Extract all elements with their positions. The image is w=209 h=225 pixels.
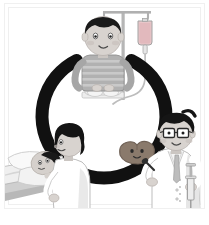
artwork-container xyxy=(0,0,209,225)
doctor-coat-button-1 xyxy=(176,189,179,192)
syringe-plunger-top xyxy=(186,164,196,167)
nurse-cheek xyxy=(54,145,60,149)
patient-pupil-left xyxy=(94,35,97,38)
syringe-barrel xyxy=(188,178,195,200)
doctor-pupil-left xyxy=(168,132,171,135)
nurse-pupil xyxy=(60,141,62,143)
doctor-cheek-right xyxy=(186,139,193,143)
syringe-plunger-rod xyxy=(190,166,193,177)
patient-ear-left xyxy=(82,33,88,41)
patient-pupil-right xyxy=(109,35,112,38)
doctor-hand-left xyxy=(147,178,158,186)
iv-bag-hanger xyxy=(143,19,148,22)
patient-hand-right xyxy=(104,85,114,92)
doctor-coat-button-2 xyxy=(176,198,179,201)
iv-bag-fluid xyxy=(140,23,151,43)
medical-care-cycle-illustration xyxy=(0,0,209,225)
patient-hand-left xyxy=(92,85,102,92)
bottom-band xyxy=(0,208,209,225)
iv-drip-chamber xyxy=(143,45,147,54)
doctor-tie xyxy=(174,155,181,183)
liver-mascot-eye-right xyxy=(140,149,143,153)
nurse-hand xyxy=(49,194,59,202)
patient-cheek-left xyxy=(87,41,94,45)
bedridden-patient-pupil-left xyxy=(39,162,41,164)
patient-ear-right xyxy=(118,33,124,41)
doctor-cheek-left xyxy=(160,139,167,143)
doctor-pupil-right xyxy=(182,132,185,135)
iv-crossbar xyxy=(103,11,151,14)
illustration-canvas: Medical care cycle illustration xyxy=(0,0,209,225)
doctor-ear-left xyxy=(157,130,163,138)
patient-cheek-right xyxy=(112,41,119,45)
liver-mascot-eye-left xyxy=(130,149,133,153)
bedridden-patient-pupil-right xyxy=(47,160,49,162)
